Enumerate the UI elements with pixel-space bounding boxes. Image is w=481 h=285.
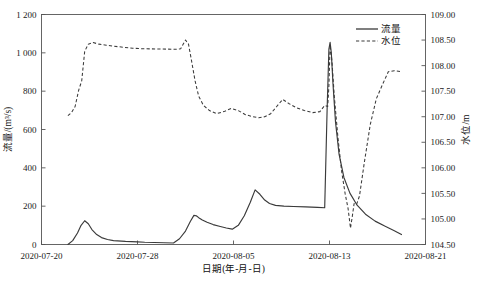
y2-tick-label: 106.50 [431,137,456,147]
y-tick-label: 1 200 [16,10,37,20]
y-tick-label: 200 [23,201,37,211]
x-tick-label: 2020-08-13 [309,251,351,261]
x-tick-label: 2020-08-21 [405,251,447,261]
y-axis-title-left: 流量/(m³/s) [2,107,14,153]
plot-frame-rect [42,15,426,245]
y-tick-label: 400 [23,163,37,173]
y2-tick-label: 107.00 [431,112,456,122]
plot-frame [42,15,426,245]
y2-tick-label: 108.50 [431,35,456,45]
chart-legend: 流量水位 [356,23,401,46]
y-tick-label: 0 [32,240,37,250]
y2-tick-label: 109.00 [431,10,456,20]
chart-container: 2020-07-202020-07-282020-08-052020-08-13… [0,0,481,285]
series-line-flow [68,42,402,244]
y2-tick-label: 105.50 [431,189,456,199]
x-axis-title: 日期(年-月-日) [202,263,265,275]
y-axis-title-right: 水位/m [460,114,471,145]
x-tick-label: 2020-08-05 [213,251,255,261]
series-line-waterlevel [68,40,402,228]
x-axis-ticks [42,241,426,245]
y-axis-left-ticks [42,15,46,245]
x-axis-tick-labels: 2020-07-202020-07-282020-08-052020-08-13… [21,251,447,261]
y2-tick-label: 108.00 [431,61,456,71]
dual-axis-line-chart: 2020-07-202020-07-282020-08-052020-08-13… [0,0,481,285]
y2-tick-label: 106.00 [431,163,456,173]
y-axis-left-tick-labels: 02004006008001 0001 200 [16,10,37,250]
legend-label-1: 流量 [381,23,401,34]
y2-tick-label: 104.50 [431,240,456,250]
y2-tick-label: 105.00 [431,214,456,224]
y-tick-label: 1 000 [16,48,37,58]
x-tick-label: 2020-07-20 [21,251,63,261]
y-axis-right-ticks [422,15,426,245]
y-tick-label: 800 [23,86,37,96]
x-tick-label: 2020-07-28 [117,251,159,261]
y-axis-right-tick-labels: 104.50105.00105.50106.00106.50107.00107.… [431,10,456,250]
y2-tick-label: 107.50 [431,86,456,96]
legend-label-2: 水位 [381,35,401,46]
y-tick-label: 600 [23,125,37,135]
